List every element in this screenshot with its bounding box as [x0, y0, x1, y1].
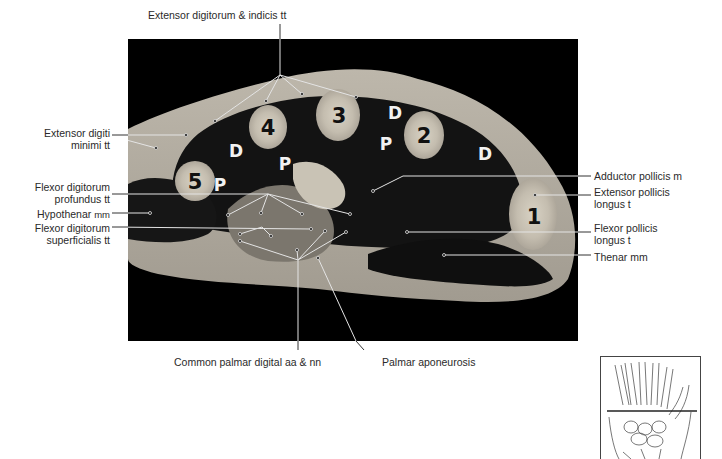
palmar-interosseous-mark: P	[214, 175, 226, 195]
label-flexor-digitorum-superficialis: Flexor digitorum superficialis tt	[18, 222, 110, 246]
hand-locator-diagram	[600, 356, 701, 459]
label-extensor-digiti-minimi: Extensor digiti minimi tt	[28, 127, 110, 151]
label-extensor-digitorum-indicis: Extensor digitorum & indicis tt	[148, 9, 286, 21]
bone-number-4: 4	[261, 116, 276, 140]
palmar-interosseous-mark: P	[279, 154, 291, 174]
label-thenar-muscles: Thenar mm	[594, 251, 648, 263]
dorsal-interosseous-mark: D	[388, 103, 402, 123]
cross-section-drawing: 5 4 3 2 1 D P P D P D	[128, 39, 578, 341]
bone-number-1: 1	[527, 205, 542, 229]
label-flexor-digitorum-profundus: Flexor digitorum profundus tt	[18, 181, 110, 205]
label-extensor-pollicis-longus: Extensor pollicis longus t	[594, 186, 670, 210]
palmar-interosseous-mark: P	[380, 134, 392, 154]
bone-number-3: 3	[332, 104, 347, 128]
label-flexor-pollicis-longus: Flexor pollicis longus t	[594, 222, 658, 246]
dorsal-interosseous-mark: D	[478, 144, 492, 164]
dorsal-interosseous-mark: D	[229, 141, 243, 161]
bone-number-2: 2	[417, 124, 432, 148]
label-hypothenar-muscles: Hypothenar mm	[18, 208, 110, 221]
bone-number-5: 5	[188, 170, 203, 194]
label-palmar-aponeurosis: Palmar aponeurosis	[382, 356, 475, 368]
hand-skeleton-sketch	[601, 357, 700, 459]
label-adductor-pollicis: Adductor pollicis m	[594, 170, 682, 182]
label-common-palmar-digital: Common palmar digital aa & nn	[174, 356, 321, 368]
cross-section-photo: 5 4 3 2 1 D P P D P D	[128, 39, 578, 341]
